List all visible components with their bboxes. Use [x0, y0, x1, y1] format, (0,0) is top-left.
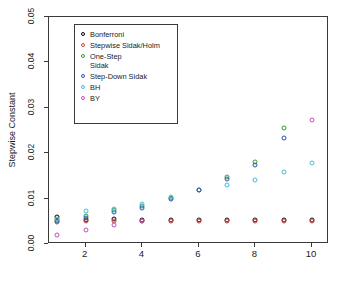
- legend-item: BH: [80, 83, 173, 92]
- legend-item-label: One-Step Sidak: [90, 52, 122, 70]
- y-axis-tick-label: 0.04: [6, 55, 40, 67]
- legend-item-label: BY: [90, 94, 100, 103]
- data-point: [281, 170, 286, 175]
- data-point: [281, 126, 286, 131]
- x-axis-tick-label: 4: [139, 248, 144, 259]
- legend-item: BY: [80, 94, 173, 103]
- x-axis-tick-label: 6: [195, 248, 200, 259]
- legend-item-label: Bonferroni: [90, 30, 124, 39]
- data-point: [310, 219, 315, 224]
- x-axis-tick: [311, 243, 312, 247]
- data-point: [168, 194, 173, 199]
- legend-marker-icon: [80, 30, 89, 39]
- data-point: [168, 219, 173, 224]
- data-point: [253, 219, 258, 224]
- data-point: [112, 222, 117, 227]
- legend-item: Stepwise Sidak/Holm: [80, 41, 173, 50]
- data-point: [253, 177, 258, 182]
- data-point: [196, 219, 201, 224]
- y-axis-tick-label: 0.03: [6, 101, 40, 113]
- data-point: [225, 219, 230, 224]
- x-axis-tick: [85, 243, 86, 247]
- legend-item: Step-Down Sidak: [80, 72, 173, 81]
- legend-marker-icon: [80, 41, 89, 50]
- chart-root: Stepwise Constant 0.000.010.020.030.040.…: [0, 0, 341, 285]
- legend-item-label: BH: [90, 83, 100, 92]
- data-point: [55, 216, 60, 221]
- data-point: [83, 228, 88, 233]
- y-axis-tick: [44, 243, 48, 244]
- legend-marker-icon: [80, 83, 89, 92]
- data-point: [310, 117, 315, 122]
- data-point: [140, 219, 145, 224]
- y-axis-tick-label: 0.00: [6, 237, 40, 249]
- data-point: [83, 209, 88, 214]
- x-axis-tick: [198, 243, 199, 247]
- x-axis-tick-label: 10: [306, 248, 317, 259]
- data-point: [225, 177, 230, 182]
- data-point: [83, 215, 88, 220]
- legend-item-label: Stepwise Sidak/Holm: [90, 41, 160, 50]
- data-point: [225, 183, 230, 188]
- data-point: [281, 135, 286, 140]
- y-axis-tick-label: 0.02: [6, 146, 40, 158]
- data-point: [112, 206, 117, 211]
- x-axis-tick-label: 8: [252, 248, 257, 259]
- data-point: [140, 202, 145, 207]
- legend-marker-icon: [80, 52, 89, 61]
- data-point: [196, 188, 201, 193]
- y-axis-tick-label: 0.05: [6, 10, 40, 22]
- legend-marker-icon: [80, 72, 89, 81]
- y-axis-tick-label: 0.01: [6, 192, 40, 204]
- x-axis-tick-label: 2: [82, 248, 87, 259]
- legend-item-label: Step-Down Sidak: [90, 72, 147, 81]
- y-axis-title: Stepwise Constant: [4, 0, 20, 259]
- legend-item: One-Step Sidak: [80, 52, 173, 70]
- legend-marker-icon: [80, 94, 89, 103]
- legend-item: Bonferroni: [80, 30, 173, 39]
- data-point: [281, 219, 286, 224]
- data-point: [55, 232, 60, 237]
- data-point: [253, 162, 258, 167]
- x-axis-tick: [254, 243, 255, 247]
- chart-legend: BonferroniStepwise Sidak/HolmOne-Step Si…: [74, 24, 178, 124]
- x-axis-tick: [141, 243, 142, 247]
- data-point: [310, 161, 315, 166]
